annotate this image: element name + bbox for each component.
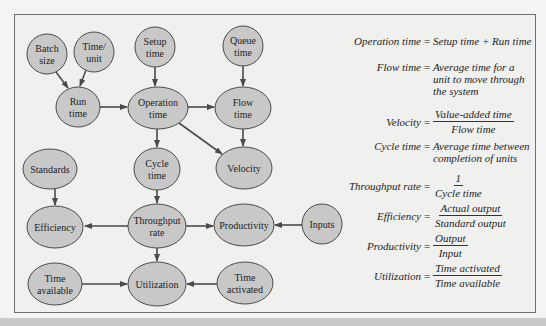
node-label: rate: [150, 227, 166, 238]
node-efficiency: Efficiency: [27, 206, 83, 248]
node-cycle-time: Cycletime: [134, 148, 180, 190]
node-throughput-rate: Throughputrate: [128, 204, 186, 248]
equals-sign: =: [421, 35, 433, 47]
node-flow-time: Flowtime: [215, 87, 271, 129]
node-productivity: Productivity: [214, 204, 274, 246]
equals-sign: =: [421, 180, 433, 192]
bottom-edge-strip: [0, 318, 546, 326]
formula-rhs-line: the system: [433, 85, 525, 97]
node-label: Run: [70, 96, 87, 107]
node-standards: Standards: [23, 149, 77, 189]
node-label: activated: [227, 284, 263, 295]
denominator: Standard output: [433, 216, 508, 229]
formula-lhs: Throughput rate: [300, 180, 421, 192]
node-label: Queue: [230, 35, 257, 46]
node-time-available: Timeavailable: [28, 263, 82, 305]
numerator: Output: [433, 232, 468, 246]
fraction: Value-added time Flow time: [433, 108, 514, 135]
node-label: Throughput: [133, 215, 180, 226]
node-label: Velocity: [227, 163, 260, 174]
formula-rhs: Average time between completion of units: [433, 140, 530, 164]
node-label: time: [234, 47, 252, 58]
node-queue-time: Queuetime: [223, 26, 263, 66]
node-label: time: [234, 109, 252, 120]
denominator: Input: [437, 246, 464, 259]
node-label: Time/: [82, 41, 106, 52]
formula-rhs-line: Average time between: [433, 140, 530, 152]
fraction: Output Input: [433, 232, 468, 259]
formula-rhs: Average time for a unit to move through …: [433, 61, 525, 97]
node-run-time: Runtime: [56, 87, 100, 127]
node-label: size: [39, 55, 55, 66]
formula-lhs: Productivity: [300, 240, 421, 252]
formula-efficiency: Efficiency = Actual output Standard outp…: [300, 202, 508, 229]
node-utilization: Utilization: [128, 262, 186, 306]
equals-sign: =: [421, 116, 433, 128]
formula-rhs-line: unit to move through: [433, 73, 525, 85]
denominator: Time available: [433, 276, 502, 289]
node-label: time: [146, 48, 164, 59]
node-operation-time: Operationtime: [128, 87, 188, 129]
node-label: time: [149, 109, 167, 120]
node-time-activated: Timeactivated: [217, 262, 273, 304]
node-label: Time: [235, 272, 256, 283]
formula-lhs: Flow time: [300, 61, 421, 73]
node-label: Standards: [30, 164, 70, 175]
formula-cycle-time: Cycle time = Average time between comple…: [300, 140, 530, 164]
node-group: BatchsizeTime/unitSetuptimeQueuetimeRunt…: [23, 26, 342, 306]
node-label: Time: [45, 273, 66, 284]
node-label: available: [37, 285, 74, 296]
fraction: Actual output Standard output: [433, 202, 508, 229]
formula-rhs-line: completion of units: [433, 152, 530, 164]
formula-lhs: Efficiency: [300, 210, 421, 222]
formula-rhs: Setup time + Run time: [433, 35, 531, 47]
numerator: Value-added time: [433, 108, 514, 122]
formula-velocity: Velocity = Value-added time Flow time: [300, 108, 514, 135]
node-label: Batch: [35, 43, 58, 54]
node-label: Utilization: [136, 279, 179, 290]
equals-sign: =: [421, 210, 433, 222]
equals-sign: =: [421, 270, 433, 282]
equals-sign: =: [421, 61, 433, 73]
arrow-operation-time-to-velocity: [179, 123, 222, 154]
numerator: 1: [454, 172, 464, 186]
formula-lhs: Operation time: [300, 35, 421, 47]
node-label: Operation: [138, 97, 178, 108]
formula-productivity: Productivity = Output Input: [300, 232, 468, 259]
node-label: Setup: [144, 36, 167, 47]
formula-throughput-rate: Throughput rate = 1 Cycle time: [300, 172, 484, 199]
fraction: Time activated Time available: [433, 262, 502, 289]
formula-panel: Operation time = Setup time + Run time F…: [300, 0, 540, 326]
formula-operation-time: Operation time = Setup time + Run time: [300, 35, 531, 47]
formula-lhs: Utilization: [300, 270, 421, 282]
node-label: Cycle: [145, 158, 169, 169]
node-batch-size: Batchsize: [27, 34, 67, 74]
denominator: Flow time: [449, 122, 497, 135]
node-setup-time: Setuptime: [135, 27, 175, 67]
equals-sign: =: [421, 240, 433, 252]
numerator: Actual output: [439, 202, 503, 216]
node-label: Productivity: [219, 220, 268, 231]
denominator: Cycle time: [433, 186, 484, 199]
fraction: 1 Cycle time: [433, 172, 484, 199]
node-label: Flow: [233, 97, 254, 108]
node-velocity: Velocity: [216, 147, 272, 189]
node-label: time: [148, 170, 166, 181]
numerator: Time activated: [433, 262, 501, 276]
formula-lhs: Cycle time: [300, 140, 421, 152]
node-label: Efficiency: [34, 222, 75, 233]
node-label: unit: [86, 53, 102, 64]
formula-rhs-line: Average time for a: [433, 61, 525, 73]
formula-utilization: Utilization = Time activated Time availa…: [300, 262, 502, 289]
formula-lhs: Velocity: [300, 116, 421, 128]
node-time-unit: Time/unit: [74, 32, 114, 72]
equals-sign: =: [421, 140, 433, 152]
arrow-time-unit-to-run-time: [80, 70, 86, 86]
arrow-batch-size-to-run-time: [56, 72, 68, 88]
node-label: time: [69, 108, 87, 119]
formula-flow-time: Flow time = Average time for a unit to m…: [300, 61, 525, 97]
